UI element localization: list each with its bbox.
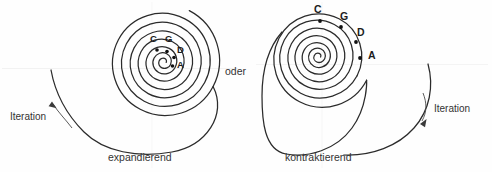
note-dot-a-right bbox=[358, 56, 362, 60]
caption-expandierend: expandierend bbox=[108, 152, 172, 163]
caption-kontraktierend: kontraktierend bbox=[285, 152, 352, 163]
note-dot-g-right bbox=[339, 25, 343, 29]
note-dot-c-right bbox=[318, 19, 322, 23]
spiral-right-contracting bbox=[262, 14, 431, 155]
iteration-label-right: Iteration bbox=[434, 104, 470, 114]
note-label-g-right: G bbox=[340, 11, 348, 22]
note-label-a-right: A bbox=[368, 50, 376, 61]
note-label-a-left: A bbox=[177, 60, 184, 70]
note-dot-d-right bbox=[354, 40, 358, 44]
spiral-right-path bbox=[280, 20, 357, 98]
note-dot-c-left bbox=[155, 48, 159, 52]
diagram-canvas: C G D A Iteration expandierend oder C G … bbox=[0, 0, 492, 172]
note-dot-d-left bbox=[172, 56, 176, 60]
spiral-right-tail bbox=[344, 64, 431, 155]
spiral-left-path bbox=[113, 11, 220, 116]
spiral-right-outer-arc bbox=[262, 32, 367, 155]
note-label-d-right: D bbox=[357, 27, 365, 38]
iteration-arrow-left-head bbox=[49, 102, 57, 109]
note-label-c-left: C bbox=[150, 34, 157, 44]
iteration-label-left: Iteration bbox=[10, 112, 46, 122]
spiral-left-expanding bbox=[49, 11, 220, 155]
note-label-d-left: D bbox=[177, 45, 184, 55]
spiral-left-tail bbox=[51, 70, 218, 154]
connector-label-oder: oder bbox=[225, 66, 246, 77]
note-dot-g-left bbox=[165, 50, 169, 54]
note-dot-a-left bbox=[171, 64, 175, 68]
iteration-arrow-right-head bbox=[420, 119, 427, 127]
note-label-c-right: C bbox=[314, 4, 322, 15]
spiral-diagram-svg bbox=[0, 0, 492, 172]
note-label-g-left: G bbox=[165, 34, 172, 44]
